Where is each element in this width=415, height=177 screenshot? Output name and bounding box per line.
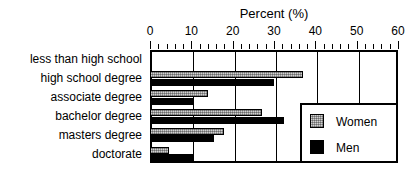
minor-tick-42 [324,44,325,49]
bar-men-2 [150,98,193,105]
minor-tick-32 [282,44,283,49]
x-tick-label-20: 20 [226,24,239,38]
minor-tick-44 [332,44,333,49]
minor-tick-24 [249,44,250,49]
x-tick-label-10: 10 [185,24,198,38]
y-axis-category-labels: less than high schoolhigh school degreea… [0,50,146,163]
major-tick-40 [315,41,316,49]
x-axis-tick-marks [0,41,415,50]
category-label-5: doctorate [92,148,142,160]
category-label-4: masters degree [59,129,142,141]
category-label-0: less than high school [30,53,142,65]
chart-title: Percent (%) [150,6,398,21]
bar-women-0 [150,53,152,60]
minor-tick-16 [216,44,217,49]
bar-men-4 [150,135,214,142]
minor-tick-34 [291,44,292,49]
minor-tick-6 [175,44,176,49]
minor-tick-56 [381,44,382,49]
bar-men-5 [150,154,193,161]
bar-chart: Percent (%) 0102030405060 less than high… [0,0,415,177]
minor-tick-22 [241,44,242,49]
minor-tick-26 [257,44,258,49]
minor-tick-48 [348,44,349,49]
major-tick-0 [150,41,151,49]
minor-tick-54 [373,44,374,49]
minor-tick-8 [183,44,184,49]
x-tick-label-0: 0 [147,24,154,38]
bar-women-5 [150,147,169,154]
x-axis-tick-labels: 0102030405060 [0,24,415,38]
bar-men-1 [150,79,274,86]
x-tick-label-50: 50 [350,24,363,38]
legend-label-men: Men [336,141,359,155]
bar-men-0 [150,60,152,67]
major-tick-50 [357,41,358,49]
category-label-3: bachelor degree [55,110,142,122]
bar-men-3 [150,117,284,124]
women-swatch [310,114,324,128]
minor-tick-58 [390,44,391,49]
minor-tick-52 [365,44,366,49]
major-tick-10 [191,41,192,49]
bar-women-3 [150,109,262,116]
minor-tick-38 [307,44,308,49]
x-tick-label-60: 60 [391,24,404,38]
minor-tick-2 [158,44,159,49]
category-label-2: associate degree [51,91,142,103]
minor-tick-28 [266,44,267,49]
minor-tick-18 [224,44,225,49]
bar-women-2 [150,90,208,97]
legend-label-women: Women [336,115,377,129]
minor-tick-36 [299,44,300,49]
chart-legend: WomenMen [300,103,398,163]
major-tick-30 [274,41,275,49]
men-swatch [310,140,324,154]
minor-tick-12 [200,44,201,49]
bar-women-4 [150,128,224,135]
minor-tick-14 [208,44,209,49]
minor-tick-46 [340,44,341,49]
x-tick-label-40: 40 [309,24,322,38]
x-tick-label-30: 30 [267,24,280,38]
major-tick-60 [398,41,399,49]
category-label-1: high school degree [41,72,142,84]
major-tick-20 [233,41,234,49]
bar-women-1 [150,71,303,78]
minor-tick-4 [167,44,168,49]
